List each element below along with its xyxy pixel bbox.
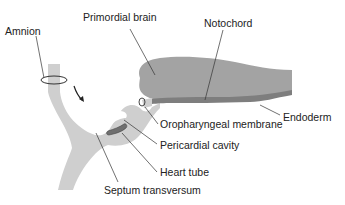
- label-heart-tube: Heart tube: [160, 167, 209, 178]
- label-notochord: Notochord: [204, 18, 252, 29]
- embryo-diagram: Amnion Primordial brain Notochord Endode…: [0, 0, 345, 205]
- label-pericardial-cavity: Pericardial cavity: [160, 140, 239, 151]
- label-endoderm: Endoderm: [283, 112, 331, 123]
- leader-amnion: [36, 36, 44, 78]
- leader-endoderm: [260, 105, 280, 115]
- label-septum-transversum: Septum transversum: [104, 185, 201, 196]
- label-amnion: Amnion: [5, 26, 41, 37]
- label-primordial-brain: Primordial brain: [83, 12, 157, 23]
- pharynx-connection: [142, 98, 152, 108]
- primordial-brain-shape: [139, 57, 292, 100]
- label-oropharyngeal-membrane: Oropharyngeal membrane: [160, 119, 283, 130]
- leader-heart-tube: [122, 133, 157, 172]
